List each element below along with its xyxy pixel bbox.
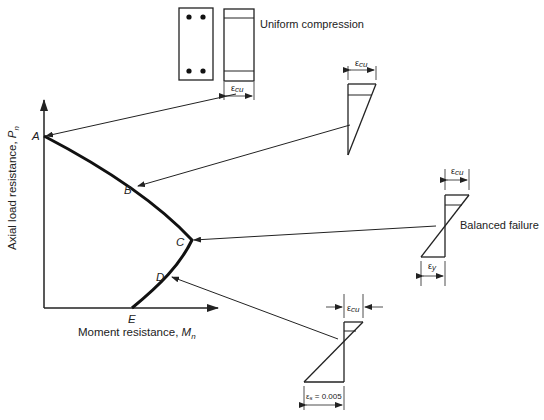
interaction-diagram: Axial load resistance, Pn Moment resista…: [0, 0, 544, 420]
strain-diagram-b: εcu: [348, 58, 376, 155]
svg-text:εcu: εcu: [355, 58, 368, 69]
y-axis-label: Axial load resistance, Pn: [6, 125, 21, 250]
svg-text:εy: εy: [428, 261, 437, 272]
svg-text:εcu: εcu: [231, 83, 244, 94]
point-c-label: C: [176, 236, 185, 248]
rebar-dot: [200, 68, 205, 73]
point-d-label: D: [156, 271, 164, 283]
axes: [44, 100, 218, 308]
strain-diagram-d: εcu εs = 0.005: [304, 294, 383, 410]
arrow-to-c: [194, 226, 436, 240]
point-a-label: A: [31, 130, 40, 142]
arrow-to-b: [138, 125, 350, 186]
arrow-to-a: [46, 94, 236, 136]
point-b-label: B: [124, 184, 132, 196]
point-e-label: E: [128, 313, 136, 325]
uniform-compression-label: Uniform compression: [260, 18, 364, 30]
balanced-failure-label: Balanced failure: [460, 219, 539, 231]
svg-text:εcu: εcu: [347, 303, 360, 314]
svg-text:εcu: εcu: [451, 166, 464, 177]
interaction-curve: [44, 136, 192, 308]
svg-text:εs = 0.005: εs = 0.005: [306, 392, 342, 401]
x-axis-label: Moment resistance, Mn: [78, 326, 196, 341]
strain-diagram-uniform: εcu: [224, 9, 254, 100]
rebar-dot: [186, 68, 191, 73]
column-section: [179, 8, 213, 80]
rebar-dot: [200, 14, 205, 19]
rebar-dot: [186, 14, 191, 19]
